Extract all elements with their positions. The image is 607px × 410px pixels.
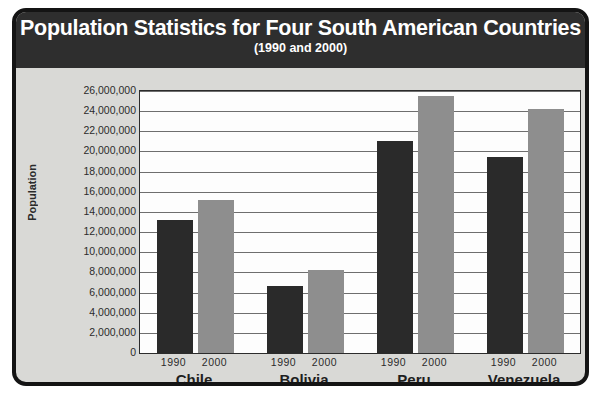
bars-layer <box>140 91 580 353</box>
plot-area <box>139 90 581 354</box>
bar-chile-2000 <box>198 200 234 353</box>
x-axis-group-venezuela: 19902000Venezuela <box>486 356 563 386</box>
y-axis-tick-label: 20,000,000 <box>58 145 136 155</box>
bar-group <box>487 91 564 353</box>
y-axis-tick-label: 2,000,000 <box>58 327 136 337</box>
y-axis-tick-label: 22,000,000 <box>58 125 136 135</box>
x-axis-category-label: Peru <box>376 370 453 386</box>
y-axis-tick-label: 10,000,000 <box>58 246 136 256</box>
x-axis-year-label: 2000 <box>527 356 563 369</box>
y-axis-tick-label: 6,000,000 <box>58 287 136 297</box>
x-axis-year-label: 1990 <box>486 356 522 369</box>
bar-chile-1990 <box>157 220 193 353</box>
bar-group <box>157 91 234 353</box>
x-axis-category-label: Venezuela <box>486 370 563 386</box>
x-axis-year-labels: 19902000 <box>376 356 453 369</box>
x-axis-year-label: 1990 <box>376 356 412 369</box>
x-axis-labels: 19902000Chile19902000Bolivia19902000Peru… <box>139 356 582 386</box>
bar-venezuela-1990 <box>487 157 523 354</box>
y-axis-tick-labels: 26,000,00024,000,00022,000,00020,000,000… <box>58 90 136 352</box>
y-axis-tick-label: 26,000,000 <box>58 85 136 95</box>
bar-bolivia-2000 <box>308 270 344 353</box>
chart-subtitle: (1990 and 2000) <box>16 41 585 56</box>
x-axis-category-label: Chile <box>156 370 233 386</box>
x-axis-category-label: Bolivia <box>266 370 343 386</box>
y-axis-tick-label: 12,000,000 <box>58 226 136 236</box>
bar-venezuela-2000 <box>528 109 564 353</box>
bar-peru-1990 <box>377 141 413 353</box>
x-axis-group-bolivia: 19902000Bolivia <box>266 356 343 386</box>
y-axis-tick-label: 16,000,000 <box>58 186 136 196</box>
bar-group <box>377 91 454 353</box>
x-axis-year-label: 2000 <box>307 356 343 369</box>
chart-title: Population Statistics for Four South Ame… <box>16 15 585 41</box>
y-axis-tick-label: 0 <box>58 347 136 357</box>
y-axis-tick-label: 24,000,000 <box>58 105 136 115</box>
y-axis-title: Population <box>26 164 40 221</box>
bar-peru-2000 <box>418 96 454 353</box>
x-axis-year-label: 1990 <box>266 356 302 369</box>
x-axis-year-label: 2000 <box>197 356 233 369</box>
bar-bolivia-1990 <box>267 286 303 354</box>
chart-title-banner: Population Statistics for Four South Ame… <box>16 12 585 68</box>
x-axis-group-peru: 19902000Peru <box>376 356 453 386</box>
x-axis-year-label: 1990 <box>156 356 192 369</box>
y-axis-tick-label: 8,000,000 <box>58 266 136 276</box>
x-axis-group-chile: 19902000Chile <box>156 356 233 386</box>
y-axis-tick-label: 14,000,000 <box>58 206 136 216</box>
chart-frame: Population Statistics for Four South Ame… <box>12 8 589 386</box>
x-axis-year-labels: 19902000 <box>486 356 563 369</box>
y-axis-tick-label: 4,000,000 <box>58 307 136 317</box>
x-axis-year-label: 2000 <box>417 356 453 369</box>
chart-body: Population 26,000,00024,000,00022,000,00… <box>16 68 585 382</box>
bar-group <box>267 91 344 353</box>
x-axis-year-labels: 19902000 <box>266 356 343 369</box>
y-axis-tick-label: 18,000,000 <box>58 166 136 176</box>
x-axis-year-labels: 19902000 <box>156 356 233 369</box>
